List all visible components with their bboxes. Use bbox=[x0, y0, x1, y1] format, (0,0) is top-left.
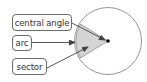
central-angle-label: central angle bbox=[12, 14, 72, 31]
sector-label: sector bbox=[12, 58, 47, 75]
arc-text: arc bbox=[16, 38, 29, 48]
center-point bbox=[106, 39, 110, 43]
arc-label: arc bbox=[12, 35, 32, 51]
sector-shape bbox=[76, 24, 108, 58]
sector-text: sector bbox=[17, 62, 43, 72]
central-angle-text: central angle bbox=[15, 18, 70, 28]
